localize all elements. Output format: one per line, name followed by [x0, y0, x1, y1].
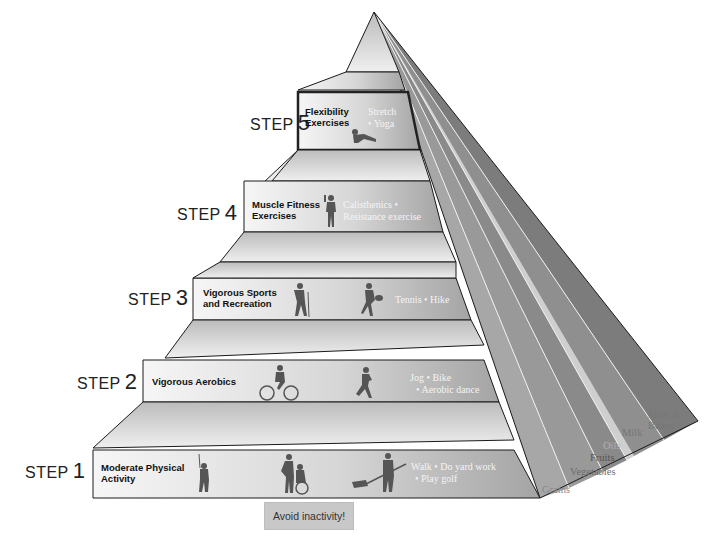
step-number: 3 — [176, 285, 189, 310]
activity-line: • Aerobic dance — [410, 384, 479, 396]
cyclist-icon — [258, 364, 300, 402]
step-2-activities: Jog • Bike • Aerobic dance — [410, 372, 479, 396]
runner-icon — [354, 366, 376, 400]
tennis-player-icon — [359, 282, 383, 318]
raking-person-icon — [350, 452, 408, 494]
activity-line: Jog • Bike — [410, 372, 479, 384]
stretching-person-icon — [350, 127, 378, 147]
step-2-title: Vigorous Aerobics — [152, 376, 236, 387]
step-1-label: STEP1 — [25, 458, 86, 484]
title-line: Vigorous Aerobics — [152, 376, 236, 387]
food-group-milk: Milk — [622, 427, 642, 438]
title-line: Flexibility — [305, 106, 349, 117]
hiker-icon — [290, 282, 312, 318]
step-word: STEP — [128, 291, 172, 308]
wheelchair-helper-icon — [280, 453, 310, 495]
food-group-line: Beans — [648, 420, 680, 431]
step-3-label: STEP3 — [128, 285, 189, 311]
food-group-grains: Grains — [542, 484, 570, 495]
step-number: 4 — [225, 200, 238, 225]
activity-line: Stretch — [368, 106, 396, 118]
step-word: STEP — [77, 375, 121, 392]
activity-line: Tennis • Hike — [395, 294, 449, 306]
step-number: 1 — [73, 458, 86, 483]
step-number: 2 — [125, 369, 138, 394]
step-3-title: Vigorous Sports and Recreation — [203, 287, 277, 309]
food-group-line: Meat & — [648, 409, 680, 420]
step-4-label: STEP4 — [177, 200, 238, 226]
title-line: Exercises — [252, 210, 320, 221]
step-1-activities: Walk • Do yard work • Play golf — [411, 461, 496, 485]
food-group-oils: Oils — [603, 440, 621, 451]
activity-line: Resistance exercise — [343, 211, 421, 223]
step-word: STEP — [25, 464, 69, 481]
title-line: Muscle Fitness — [252, 199, 320, 210]
title-line: Exercises — [305, 117, 349, 128]
activity-line: Walk • Do yard work — [411, 461, 496, 473]
golfer-icon — [196, 454, 212, 494]
step-word: STEP — [250, 116, 294, 133]
step-4-title: Muscle Fitness Exercises — [252, 199, 320, 221]
step-4-activities: Calisthenics • Resistance exercise — [343, 199, 421, 223]
food-group-fruits: Fruits — [590, 452, 615, 463]
activity-line: Calisthenics • — [343, 199, 421, 211]
step-2-label: STEP2 — [77, 369, 138, 395]
step-3-activities: Tennis • Hike — [395, 294, 449, 306]
avoid-inactivity-label: Avoid inactivity! — [273, 510, 345, 522]
avoid-inactivity-box: Avoid inactivity! — [264, 502, 354, 530]
title-line: Vigorous Sports — [203, 287, 277, 298]
food-group-meat-beans: Meat & Beans — [648, 409, 680, 431]
step-5-title: Flexibility Exercises — [305, 106, 349, 128]
title-line: and Recreation — [203, 298, 277, 309]
food-group-vegetables: Vegetables — [570, 466, 615, 477]
step-1-title: Moderate Physical Activity — [101, 462, 184, 484]
activity-line: • Play golf — [411, 473, 496, 485]
step-word: STEP — [177, 206, 221, 223]
weightlifter-icon — [324, 194, 338, 228]
title-line: Activity — [101, 473, 184, 484]
step-5-label: STEP5 — [250, 110, 311, 136]
title-line: Moderate Physical — [101, 462, 184, 473]
